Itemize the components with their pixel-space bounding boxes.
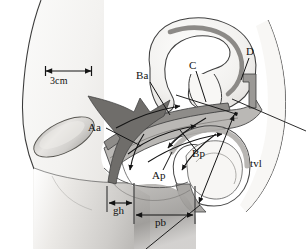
label-point-aa: Aa	[88, 122, 101, 133]
label-measure-gh: gh	[113, 205, 124, 216]
label-point-c: C	[189, 60, 196, 71]
label-point-bp: Bp	[192, 148, 205, 159]
label-measure-tvl: tvl	[250, 158, 262, 169]
diagram-canvas	[0, 0, 306, 249]
label-point-ap: Ap	[152, 170, 166, 181]
scale-bar-label: 3cm	[50, 76, 68, 86]
pop-q-diagram-figure: 3cm Aa Ba C D Ap Bp gh pb tvl	[0, 0, 306, 249]
leader-ap	[163, 152, 172, 170]
label-point-d: D	[246, 46, 254, 57]
label-measure-pb: pb	[155, 217, 166, 228]
label-point-ba: Ba	[136, 70, 148, 81]
uterus-group	[149, 18, 256, 112]
